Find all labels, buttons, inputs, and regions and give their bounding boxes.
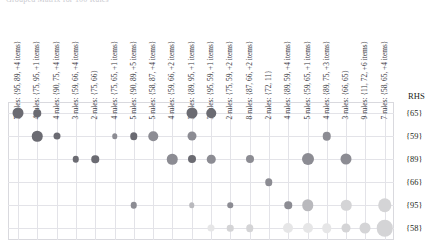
- lhs-column-label: 4 rules: {59, 66, +2 items}: [168, 41, 175, 120]
- gridline-vertical: [192, 102, 193, 240]
- lhs-column-label: 2 rules: {72, 11}: [264, 70, 271, 119]
- rule-bubble[interactable]: [112, 133, 118, 139]
- gridline-horizontal: [8, 113, 394, 114]
- gridline-vertical: [250, 102, 251, 240]
- gridline-horizontal: [8, 136, 394, 137]
- gridline-vertical: [115, 102, 116, 240]
- gridline-vertical: [37, 102, 38, 240]
- lhs-column-label: 3 rules: {59, 66, +4 items}: [71, 41, 78, 120]
- rule-bubble[interactable]: [32, 131, 43, 142]
- gridline-vertical: [288, 102, 289, 240]
- gridline-vertical: [134, 102, 135, 240]
- lhs-column-label: 9 rules: {11, 72, +6 items}: [361, 41, 368, 120]
- rule-bubble[interactable]: [187, 132, 196, 141]
- rule-bubble[interactable]: [302, 153, 314, 165]
- gridline-horizontal: [8, 205, 394, 206]
- rule-bubble[interactable]: [53, 133, 60, 140]
- rhs-row-label: {58}: [406, 224, 422, 233]
- gridline-vertical: [18, 102, 19, 240]
- chart-title-strip: Grouped Matrix for 100 Rules: [0, 0, 446, 9]
- gridline-vertical: [308, 102, 309, 240]
- rule-bubble[interactable]: [130, 132, 138, 140]
- rule-bubble[interactable]: [342, 224, 351, 233]
- rule-bubble[interactable]: [208, 225, 215, 232]
- rule-bubble[interactable]: [246, 224, 254, 232]
- rhs-row-label: {59}: [406, 132, 422, 141]
- gridline-vertical: [211, 102, 212, 240]
- rule-bubble[interactable]: [378, 198, 392, 212]
- rule-bubble[interactable]: [148, 131, 158, 141]
- rule-bubble[interactable]: [91, 155, 99, 163]
- rhs-row-label: {65}: [406, 109, 422, 118]
- gridline-vertical: [57, 102, 58, 240]
- rule-bubble[interactable]: [303, 223, 313, 233]
- rule-bubble[interactable]: [283, 223, 293, 233]
- gridline-vertical: [153, 102, 154, 240]
- gridline-vertical: [76, 102, 77, 240]
- gridline-vertical: [269, 102, 270, 240]
- rule-bubble[interactable]: [186, 108, 197, 119]
- rule-bubble[interactable]: [167, 154, 178, 165]
- rule-bubble[interactable]: [341, 154, 352, 165]
- rule-bubble[interactable]: [284, 201, 292, 209]
- rule-bubble[interactable]: [189, 202, 195, 208]
- lhs-column-label: 4 rules: {90, 75, +4 items}: [52, 41, 59, 120]
- rule-bubble[interactable]: [246, 155, 254, 163]
- rule-bubble[interactable]: [265, 178, 273, 186]
- lhs-column-label: 3 rules: {66, 65}: [342, 70, 349, 119]
- gridline-vertical: [346, 102, 347, 240]
- page-title: Grouped Matrix for 100 Rules: [6, 0, 109, 4]
- lhs-column-label: 4 rules: {89, 75, +3 items}: [322, 41, 329, 120]
- gridline-vertical: [95, 102, 96, 240]
- rule-bubble[interactable]: [323, 132, 332, 141]
- gridline-vertical: [365, 102, 366, 240]
- lhs-column-label: 5 rules: {90, 89, +5 items}: [129, 41, 136, 120]
- lhs-column-label: 5 rules: {59, 65, +1 items}: [303, 41, 310, 120]
- rhs-row-label: {89}: [406, 155, 422, 164]
- lhs-column-label: 4 rules: {75, 65, +1 items}: [110, 41, 117, 120]
- rhs-row-label: {66}: [406, 178, 422, 187]
- lhs-column-label: 4 rules: {89, 59, +4 items}: [284, 41, 291, 120]
- gridline-vertical: [230, 102, 231, 240]
- lhs-column-label: 2 rules: {75, 59, +2 items}: [226, 41, 233, 120]
- gridline-vertical: [172, 102, 173, 240]
- rule-bubble[interactable]: [322, 223, 332, 233]
- gridline-horizontal: [8, 159, 394, 160]
- rule-bubble[interactable]: [228, 202, 234, 208]
- gridline-horizontal: [8, 228, 394, 229]
- rule-bubble[interactable]: [341, 200, 352, 211]
- rule-bubble[interactable]: [73, 156, 80, 163]
- rule-bubble[interactable]: [360, 223, 371, 234]
- rule-bubble[interactable]: [131, 202, 138, 209]
- plot-frame: [8, 102, 394, 240]
- rule-bubble[interactable]: [13, 108, 24, 119]
- rule-bubble[interactable]: [302, 199, 314, 211]
- gridline-vertical: [327, 102, 328, 240]
- lhs-column-label: 7 rules: {58, 65, +4 items}: [380, 41, 387, 120]
- rule-bubble[interactable]: [34, 109, 42, 117]
- gridline-horizontal: [8, 182, 394, 183]
- rhs-axis-header: RHS: [408, 91, 425, 101]
- balloon-matrix-chart: Grouped Matrix for 100 Rules 7 rules: {9…: [0, 0, 446, 249]
- rhs-row-label: {95}: [406, 201, 422, 210]
- rule-bubble[interactable]: [206, 108, 216, 118]
- lhs-column-label: 5 rules: {58, 87, +4 items}: [149, 41, 156, 120]
- lhs-column-label: 4 rules: {75, 95, +1 items}: [33, 41, 40, 120]
- lhs-column-label: 2 rules: {75, 66}: [91, 70, 98, 119]
- rule-bubble[interactable]: [227, 225, 234, 232]
- rule-bubble[interactable]: [376, 220, 393, 237]
- lhs-column-label: 8 rules: {87, 66, +2 items}: [245, 41, 252, 120]
- rule-bubble[interactable]: [188, 155, 196, 163]
- rule-bubble[interactable]: [207, 155, 216, 164]
